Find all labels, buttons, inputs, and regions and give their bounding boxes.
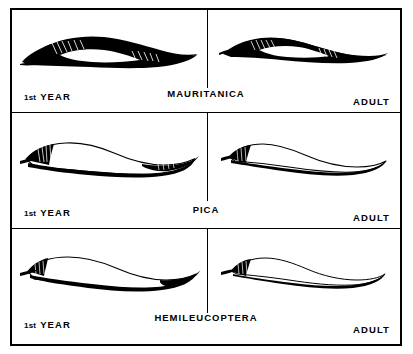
plate-row-hemileucoptera: 1stYEAR HEMILEUCOPTERA ADULT [12, 229, 400, 344]
stage-label-ordinal: 1st [24, 321, 36, 330]
specimen-cell-pica-adult [207, 113, 400, 228]
stage-label-word: YEAR [40, 319, 71, 330]
plate-row-mauritanica: 1stYEAR MAURITANICA ADULT [12, 10, 400, 113]
species-label-pica: PICA [189, 205, 224, 215]
species-label-hemileucoptera: HEMILEUCOPTERA [150, 313, 261, 323]
feather-profile-hemileucoptera-first-year-icon [20, 249, 202, 293]
stage-label-mauritanica-adult: ADULT [353, 97, 390, 107]
feather-profile-pica-first-year-icon [20, 135, 202, 179]
stage-label-hemileucoptera-adult: ADULT [353, 325, 390, 335]
feather-profile-mauritanica-first-year-icon [20, 24, 200, 76]
feather-profile-hemileucoptera-adult-icon [221, 251, 389, 291]
stage-label-ordinal: 1st [24, 209, 36, 218]
feather-profile-mauritanica-adult-icon [219, 26, 389, 74]
specimen-plate: 1stYEAR MAURITANICA ADULT [10, 8, 402, 346]
stage-label-pica-first-year: 1stYEAR [24, 208, 71, 218]
species-label-mauritanica: MAURITANICA [163, 89, 248, 99]
stage-label-hemileucoptera-first-year: 1stYEAR [24, 320, 71, 330]
plate-row-pica: 1stYEAR PICA ADULT [12, 113, 400, 229]
stage-label-ordinal: 1st [24, 93, 36, 102]
feather-profile-pica-adult-icon [221, 137, 389, 177]
stage-label-word: YEAR [40, 91, 71, 102]
stage-label-word: YEAR [40, 207, 71, 218]
stage-label-mauritanica-first-year: 1stYEAR [24, 92, 71, 102]
stage-label-pica-adult: ADULT [353, 213, 390, 223]
